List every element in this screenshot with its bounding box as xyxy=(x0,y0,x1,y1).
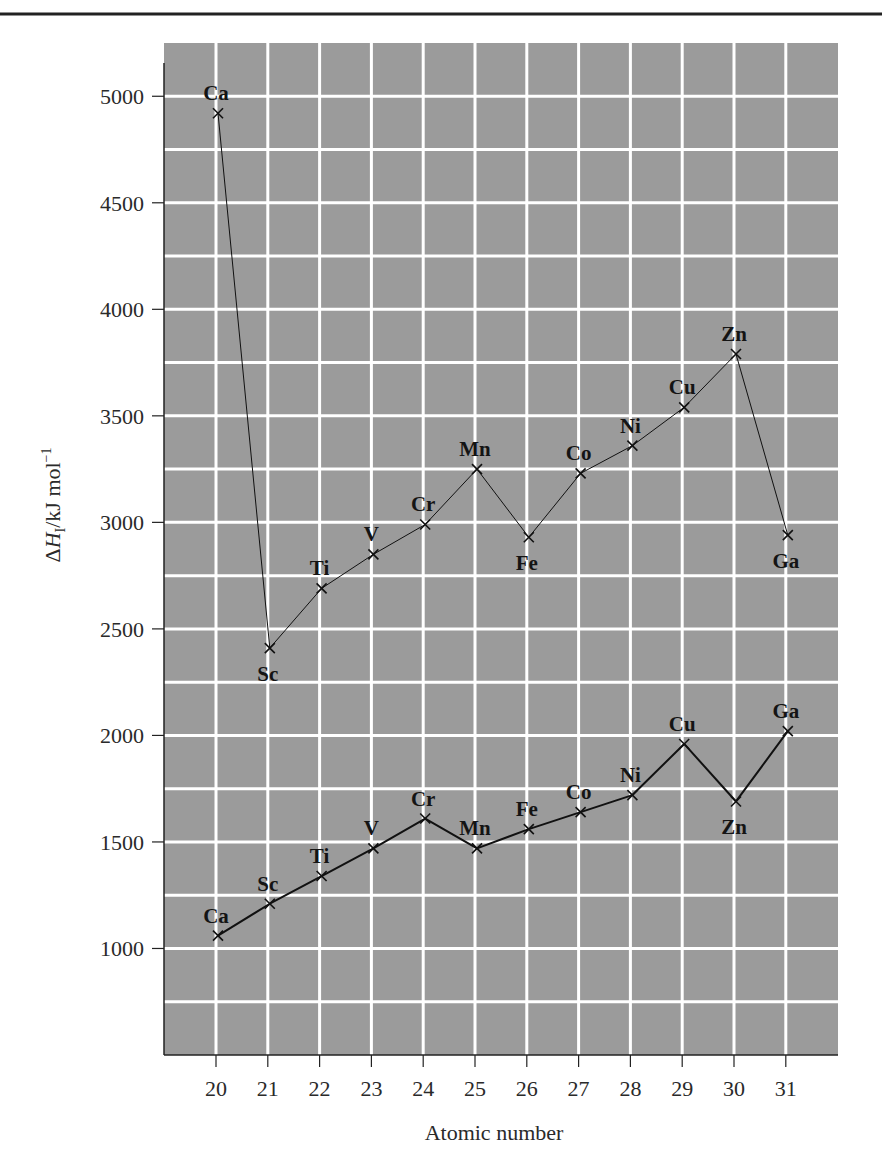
point-label: Cu xyxy=(669,712,696,736)
y-tick-label: 2000 xyxy=(100,723,144,748)
point-label: Zn xyxy=(721,815,747,839)
x-tick-label: 22 xyxy=(309,1076,331,1101)
point-label: Fe xyxy=(516,797,538,821)
y-tick-label: 1000 xyxy=(100,936,144,961)
point-label: Mn xyxy=(459,437,491,461)
x-tick-label: 20 xyxy=(205,1076,227,1101)
point-label: Mn xyxy=(459,816,491,840)
y-axis-title: ΔHI/kJ mol−1 xyxy=(39,447,68,562)
y-tick-label: 3500 xyxy=(100,404,144,429)
x-tick-label: 30 xyxy=(723,1076,745,1101)
point-label: Cr xyxy=(411,787,436,811)
x-tick-label: 24 xyxy=(412,1076,434,1101)
y-tick-label: 1500 xyxy=(100,830,144,855)
y-tick-label: 4500 xyxy=(100,191,144,216)
x-axis-title: Atomic number xyxy=(425,1120,564,1145)
point-label: Co xyxy=(566,441,592,465)
x-tick-label: 28 xyxy=(619,1076,641,1101)
point-label: Ga xyxy=(772,699,799,723)
point-label: Co xyxy=(566,780,592,804)
plot-area xyxy=(164,43,838,1055)
x-tick-label: 26 xyxy=(516,1076,538,1101)
x-tick-label: 27 xyxy=(568,1076,590,1101)
point-label: Cr xyxy=(411,492,436,516)
x-tick-label: 23 xyxy=(360,1076,382,1101)
y-tick-label: 3000 xyxy=(100,510,144,535)
point-label: Ni xyxy=(620,414,641,438)
y-tick-label: 4000 xyxy=(100,297,144,322)
point-label: Fe xyxy=(516,551,538,575)
point-label: Ti xyxy=(310,844,330,868)
y-axis-title-text: ΔHI/kJ mol−1 xyxy=(39,447,68,562)
x-tick-label: 21 xyxy=(257,1076,279,1101)
x-tick-label: 25 xyxy=(464,1076,486,1101)
point-label: Ti xyxy=(310,556,330,580)
point-label: Ca xyxy=(203,904,229,928)
x-axis-ticks: 202122232425262728293031 xyxy=(205,1055,797,1101)
x-tick-label: 29 xyxy=(671,1076,693,1101)
point-label: Sc xyxy=(257,872,278,896)
point-label: Ni xyxy=(620,763,641,787)
point-label: Cu xyxy=(669,375,696,399)
point-label: Sc xyxy=(257,662,278,686)
y-axis-ticks: 100015002000250030003500400045005000 xyxy=(100,84,164,961)
point-label: Zn xyxy=(721,322,747,346)
y-tick-label: 5000 xyxy=(100,84,144,109)
point-label: Ga xyxy=(772,549,799,573)
y-tick-label: 2500 xyxy=(100,617,144,642)
point-label: V xyxy=(364,816,379,840)
ionization-energy-chart: 100015002000250030003500400045005000 202… xyxy=(0,0,882,1160)
x-tick-label: 31 xyxy=(775,1076,797,1101)
point-label: V xyxy=(364,522,379,546)
point-label: Ca xyxy=(203,81,229,105)
